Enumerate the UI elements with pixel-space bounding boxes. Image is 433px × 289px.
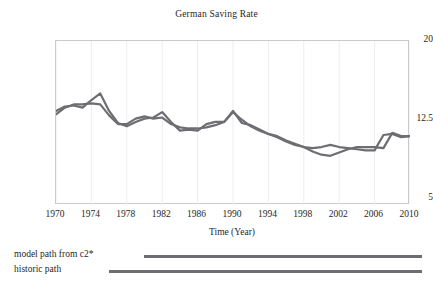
chart-legend: model path from c2* historic path <box>14 249 424 283</box>
x-axis-title: Time (Year) <box>55 227 409 237</box>
plot-area <box>55 40 409 204</box>
chart-page: German Saving Rate 20 12.5 5 19701974197… <box>0 0 433 289</box>
legend-line-historic-path <box>109 270 422 273</box>
legend-line-model-path <box>144 255 422 258</box>
legend-label-model-path: model path from c2* <box>14 249 93 259</box>
y-tick-label-20: 20 <box>387 34 433 44</box>
x-tick-label-2010: 2010 <box>388 209 430 219</box>
legend-item-model-path: model path from c2* <box>14 249 424 264</box>
gridlines <box>56 41 410 205</box>
chart-title: German Saving Rate <box>0 9 433 19</box>
plot-svg <box>56 41 410 205</box>
legend-item-historic-path: historic path <box>14 264 424 279</box>
y-tick-label-12-5: 12.5 <box>387 113 433 123</box>
legend-label-historic-path: historic path <box>14 264 61 274</box>
y-tick-label-5: 5 <box>387 192 433 202</box>
